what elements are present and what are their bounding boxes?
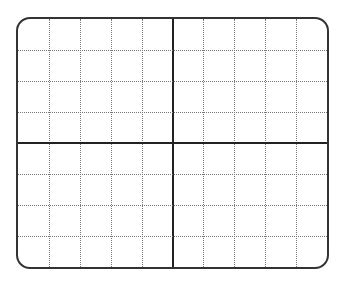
grid-frame [16, 17, 329, 269]
horizontal-grid-line [18, 81, 327, 82]
horizontal-grid-line [18, 112, 327, 113]
horizontal-grid-line [18, 174, 327, 175]
horizontal-grid-line [18, 205, 327, 206]
horizontal-grid-line [18, 50, 327, 51]
horizontal-axis-line [18, 142, 327, 144]
horizontal-grid-line [18, 236, 327, 237]
